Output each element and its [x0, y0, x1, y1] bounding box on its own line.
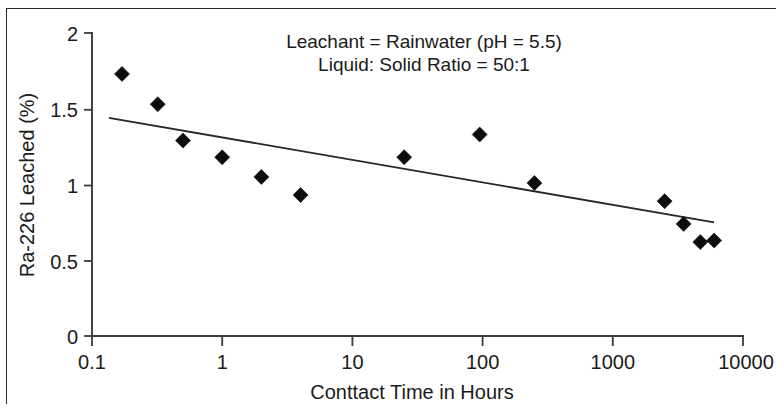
y-tick-label-2: 2: [67, 23, 78, 45]
data-point-marker: [115, 66, 130, 81]
trend-line: [109, 118, 714, 223]
x-tick-label-100: 100: [466, 351, 499, 373]
y-axis-title: Ra-226 Leached (%): [16, 93, 38, 278]
data-point-marker: [254, 169, 269, 184]
x-tick-label-10000: 10000: [718, 351, 774, 373]
figure-page: 2 1.5 1 0.5 0 0.1 1 10 100 1000 10000 Co…: [0, 0, 784, 412]
y-tick-label-1: 1: [67, 175, 78, 197]
scatter-plot-svg: 2 1.5 1 0.5 0 0.1 1 10 100 1000 10000 Co…: [0, 0, 784, 412]
data-point-marker: [150, 97, 165, 112]
data-point-marker: [657, 194, 672, 209]
x-tick-label-0point1: 0.1: [78, 351, 106, 373]
x-tick-label-10: 10: [341, 351, 363, 373]
data-point-marker: [215, 150, 230, 165]
annotation-line-2: Liquid: Solid Ratio = 50:1: [318, 54, 530, 75]
data-point-marker: [397, 150, 412, 165]
y-tick-label-0point5: 0.5: [50, 251, 78, 273]
y-axis-ticks: [84, 33, 92, 336]
data-point-marker: [176, 133, 191, 148]
x-tick-label-1: 1: [217, 351, 228, 373]
data-point-marker: [707, 233, 722, 248]
data-point-group: [115, 66, 722, 249]
data-point-marker: [527, 175, 542, 190]
x-axis-ticks: [92, 336, 743, 346]
x-axis-title: Conttact Time in Hours: [310, 381, 513, 403]
x-tick-label-1000: 1000: [591, 351, 636, 373]
data-point-marker: [693, 235, 708, 250]
annotation-line-1: Leachant = Rainwater (pH = 5.5): [286, 31, 562, 52]
data-point-marker: [293, 188, 308, 203]
y-tick-label-0: 0: [67, 326, 78, 348]
y-tick-label-1point5: 1.5: [50, 99, 78, 121]
chart-figure: 2 1.5 1 0.5 0 0.1 1 10 100 1000 10000 Co…: [0, 0, 784, 412]
data-point-marker: [472, 127, 487, 142]
